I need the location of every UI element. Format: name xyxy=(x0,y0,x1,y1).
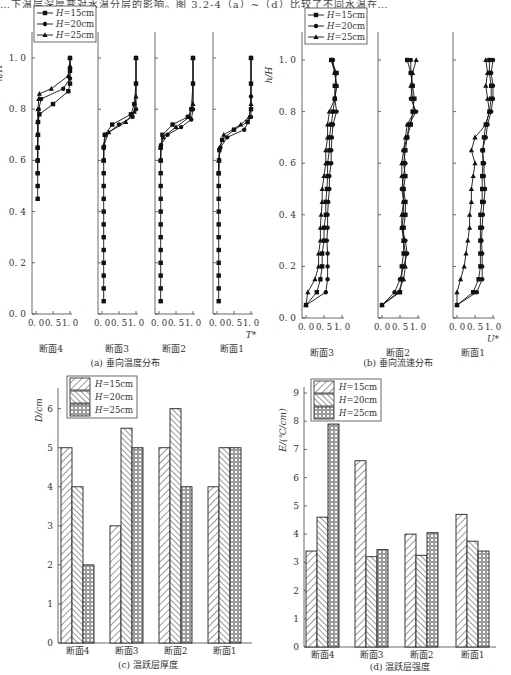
chart-panel-d: 0123456789E/(℃/cm)断面4断面3断面2断面1H=15cmH=20… xyxy=(278,379,496,672)
legend-label: H=15cm xyxy=(55,8,94,18)
x-tick-label: 0. 5 xyxy=(111,318,127,328)
circle-marker xyxy=(480,277,484,281)
bar xyxy=(366,557,377,647)
square-marker xyxy=(159,197,163,201)
square-marker xyxy=(110,122,114,126)
triangle-marker xyxy=(305,289,310,294)
square-marker xyxy=(318,277,322,281)
y-tick-label: 9 xyxy=(293,388,299,398)
circle-marker xyxy=(484,135,488,139)
category-label: 断面1 xyxy=(461,649,485,660)
triangle-marker xyxy=(483,83,488,88)
y-tick-label: 2 xyxy=(47,560,53,570)
legend-label: H=15cm xyxy=(338,382,377,392)
bar xyxy=(405,534,416,647)
triangle-marker xyxy=(49,86,54,91)
legend-label: H=20cm xyxy=(326,21,365,31)
bar xyxy=(208,487,219,643)
bar xyxy=(110,526,121,643)
circle-marker xyxy=(325,264,329,268)
bar xyxy=(230,448,241,643)
circle-marker xyxy=(480,226,484,230)
category-label: 断面2 xyxy=(164,645,188,656)
square-marker xyxy=(68,81,72,85)
bar xyxy=(61,448,72,643)
y-tick-label: 1. 0 xyxy=(279,55,296,65)
legend-label: H=15cm xyxy=(326,10,365,20)
circle-marker xyxy=(330,135,334,139)
square-marker xyxy=(217,299,221,303)
category-label: 断面1 xyxy=(213,645,237,656)
circle-marker xyxy=(479,238,483,242)
bar xyxy=(132,448,143,643)
circle-marker xyxy=(36,171,40,175)
circle-marker xyxy=(327,187,331,191)
series-line xyxy=(219,58,251,173)
y-tick-label: 0 xyxy=(293,642,299,652)
triangle-marker xyxy=(133,94,138,99)
legend-label: H=25cm xyxy=(326,32,365,42)
circle-marker xyxy=(314,24,318,28)
square-marker xyxy=(217,286,221,290)
circle-marker xyxy=(329,148,333,152)
x-tick-label: 0. 0 xyxy=(298,322,314,332)
triangle-marker xyxy=(472,160,477,165)
bar xyxy=(427,533,438,647)
y-tick-label: 6 xyxy=(293,473,299,483)
x-tick-label: 1. 0 xyxy=(62,318,78,328)
legend-swatch xyxy=(70,391,90,403)
subplot-1: 0. 00. 51. 0断面3 xyxy=(298,32,350,358)
bar xyxy=(478,551,489,647)
triangle-marker xyxy=(101,142,106,147)
x-tick-label: 0. 5 xyxy=(168,318,184,328)
y-tick-label: 4 xyxy=(47,482,53,492)
legend-swatch xyxy=(70,378,90,390)
square-marker xyxy=(217,197,221,201)
series-line xyxy=(382,60,414,305)
x-tick-label: 0. 5 xyxy=(467,322,483,332)
subplot-2: 0. 00. 51. 0断面2 xyxy=(374,32,426,358)
x-tick-label: 0. 5 xyxy=(45,318,61,328)
subplot-3: 0. 00. 51. 0断面2 xyxy=(151,32,201,354)
triangle-marker xyxy=(469,199,474,204)
square-marker xyxy=(102,299,106,303)
figure-canvas: 0. 00. 20. 40. 60. 81. 0h/H0. 00. 51. 0断… xyxy=(0,0,511,675)
square-marker xyxy=(66,89,70,93)
panel-caption: (c) 温跃层厚度 xyxy=(118,659,178,670)
x-tick-label: 0. 0 xyxy=(28,318,44,328)
triangle-marker xyxy=(467,225,472,230)
y-axis-label: D/cm xyxy=(34,398,44,423)
y-tick-label: 5 xyxy=(47,443,53,453)
square-marker xyxy=(314,13,318,17)
bar xyxy=(219,448,230,643)
y-tick-label: 1 xyxy=(47,599,53,609)
legend-label: H=15cm xyxy=(94,379,133,389)
y-tick-label: 0. 8 xyxy=(279,107,296,117)
square-marker xyxy=(217,248,221,252)
subplot-1: 0. 00. 51. 0断面4 xyxy=(28,32,78,354)
square-marker xyxy=(102,235,106,239)
x-tick-label: 0. 0 xyxy=(449,322,465,332)
square-marker xyxy=(102,222,106,226)
y-tick-label: 8 xyxy=(293,416,299,426)
y-tick-label: 0. 0 xyxy=(279,313,296,323)
square-marker xyxy=(36,197,40,201)
panel-caption: (d) 温跃层强度 xyxy=(370,661,431,672)
bar xyxy=(317,517,328,647)
bar xyxy=(159,448,170,643)
x-tick-label: 1. 0 xyxy=(243,318,259,328)
series-line xyxy=(161,58,193,160)
square-marker xyxy=(102,197,106,201)
bar xyxy=(456,514,467,647)
bar xyxy=(355,461,366,647)
bar xyxy=(416,555,427,647)
y-tick-label: 0 xyxy=(47,638,53,648)
x-axis-label: U* xyxy=(487,334,500,344)
triangle-marker xyxy=(462,264,467,269)
triangle-marker xyxy=(465,238,470,243)
square-marker xyxy=(43,11,47,15)
y-tick-label: 1 xyxy=(293,614,299,624)
circle-marker xyxy=(483,187,487,191)
legend: H=15cmH=20cmH=25cm xyxy=(34,6,96,42)
triangle-marker xyxy=(467,212,472,217)
